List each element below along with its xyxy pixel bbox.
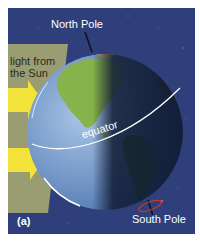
earth-illumination-diagram: North Pole light from the Sun equator So… — [8, 8, 195, 234]
panel-label: (a) — [17, 215, 30, 227]
south-pole-label: South Pole — [132, 213, 186, 225]
north-pole-label: North Pole — [51, 18, 103, 30]
sunlight-label: light from the Sun — [10, 55, 70, 79]
diagram-graphic — [8, 8, 195, 234]
north-axis — [85, 32, 92, 52]
